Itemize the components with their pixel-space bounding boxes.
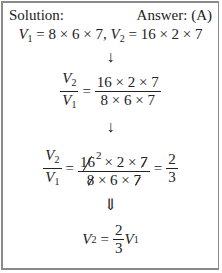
solution-label: Solution: [9,7,64,24]
result-denominator: 3 [166,169,178,186]
solution-box: Solution: Answer: (A) V1 = 8 × 6 × 7, V2… [1,1,219,270]
rhs-symbol: V [124,231,133,248]
equals-sign: = [97,231,113,248]
ratio-num-subscript: 2 [55,154,60,165]
struck-7-numerator: 7 [140,154,148,171]
ratio-numerator: V2 [43,147,61,169]
ratio-num-symbol: V [62,70,71,86]
v2-symbol: V [111,26,120,42]
solution-header: Solution: Answer: (A) [9,7,212,25]
ratio-num-symbol: V [45,147,54,163]
ratio-equation: V2 V1 = 16 × 2 × 7 8 × 6 × 7 [3,69,218,113]
equals-sign: = [62,160,78,177]
ratio-denominator: V1 [60,92,78,113]
coefficient-numerator: 2 [113,222,125,240]
coefficient-fraction: 2 3 [113,222,125,257]
v1-expression: = 8 × 6 × 7, [33,26,111,42]
answer-label: Answer: (A) [137,7,212,24]
down-arrow-icon: ↓ [3,119,218,135]
ratio-den-symbol: V [62,92,71,108]
ratio-num-subscript: 2 [71,77,76,88]
result-numerator: 2 [166,151,178,169]
v1-symbol: V [18,26,27,42]
final-equation: V2 = 2 3 V1 [3,217,218,261]
numerator-middle: × 2 × [105,154,137,170]
cancelled-fraction: 162× 2 × 7 8 × 6 × 7 [78,147,150,189]
product-fraction: 16 × 2 × 7 8 × 6 × 7 [95,74,161,109]
ratio-fraction: V2 V1 [43,147,61,190]
ratio-den-subscript: 1 [71,99,76,110]
ratio-denominator: V1 [43,169,61,190]
result-fraction: 2 3 [166,151,178,186]
coefficient-denominator: 3 [113,240,125,257]
rhs-subscript: 1 [134,234,139,245]
denominator-middle: × 6 × [98,172,130,188]
ratio-den-symbol: V [45,169,54,185]
given-volumes: V1 = 8 × 6 × 7, V2 = 16 × 2 × 7 [3,26,218,44]
ratio-numerator: V2 [60,70,78,92]
reduced-2: 2 [96,149,102,161]
struck-16: 16 [80,154,95,171]
product-denominator: 8 × 6 × 7 [95,92,161,109]
product-numerator: 16 × 2 × 7 [95,74,161,92]
v2-expression: = 16 × 2 × 7 [125,26,203,42]
cancelled-denominator: 8 × 6 × 7 [78,172,150,189]
struck-8: 8 [87,172,95,189]
ratio-den-subscript: 1 [55,176,60,187]
lhs-symbol: V [82,231,91,248]
equals-sign: = [78,83,94,100]
struck-7-denominator: 7 [134,172,142,189]
cancellation-equation: V2 V1 = 162× 2 × 7 8 × 6 × 7 = 2 3 [3,143,218,193]
cancelled-numerator: 162× 2 × 7 [78,147,150,172]
equals-sign: = [150,160,166,177]
down-arrow-icon: ↓ [3,49,218,65]
double-down-arrow-icon: ⇓ [3,197,218,213]
ratio-fraction: V2 V1 [60,70,78,113]
